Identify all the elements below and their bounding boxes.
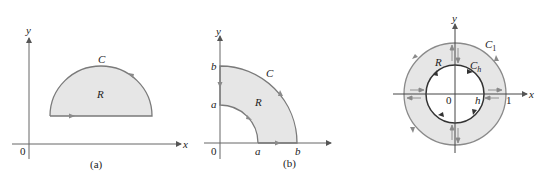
caption: (a) <box>90 158 103 171</box>
origin-label: 0 <box>20 145 26 157</box>
diagram-canvas: x y 0 C R (a) y 0 b a a b C R (b) <box>0 0 545 178</box>
outer-radius-label: 1 <box>506 94 512 106</box>
region-label: R <box>434 56 442 68</box>
curve-label: C <box>266 67 274 79</box>
caption: (b) <box>283 157 296 170</box>
origin-label: 0 <box>446 94 452 106</box>
y-axis-label: y <box>451 12 457 24</box>
arrow-outer-lower-left-icon <box>410 127 415 133</box>
region-label: R <box>254 96 262 108</box>
arrow-outer-upper-right-icon <box>494 55 499 61</box>
y-axis-label: y <box>25 24 31 36</box>
x-tick-b: b <box>295 145 301 157</box>
x-axis-label: x <box>182 138 188 150</box>
arrow-inner-lower-left-icon <box>438 112 444 117</box>
x-tick-a: a <box>255 145 261 157</box>
origin-label: 0 <box>211 145 217 157</box>
region-label: R <box>96 88 104 100</box>
x-axis-label: x <box>528 88 534 100</box>
y-axis-label: y <box>215 25 221 37</box>
y-tick-a: a <box>211 98 217 110</box>
figure-a: x y 0 C R (a) <box>12 24 188 171</box>
outer-curve-label: C1 <box>485 38 496 53</box>
arrow-outer-upper-left-icon <box>412 54 418 59</box>
figure-b: y 0 b a a b C R (b) <box>204 25 331 170</box>
curve-label: C <box>98 53 106 65</box>
figure-c: x y 0 h 1 C1 Ch R <box>393 12 534 153</box>
y-tick-b: b <box>211 60 217 72</box>
inner-radius-label: h <box>475 94 481 106</box>
